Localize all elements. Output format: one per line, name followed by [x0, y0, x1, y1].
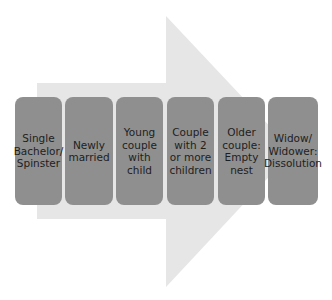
stage-label: Widow/ Widower: Dissolution [264, 132, 322, 170]
stage-young-couple: Young couple with child [116, 97, 163, 205]
stage-label: Older couple: Empty nest [222, 126, 260, 176]
stage-single: Single Bachelor/ Spinster [15, 97, 62, 205]
stage-empty-nest: Older couple: Empty nest [218, 97, 265, 205]
stage-label: Couple with 2 or more children [169, 126, 211, 176]
stage-dissolution: Widow/ Widower: Dissolution [268, 97, 318, 205]
stage-label: Single Bachelor/ Spinster [14, 132, 64, 170]
stage-label: Young couple with child [122, 126, 157, 176]
stage-newly-married: Newly married [65, 97, 113, 205]
stage-label: Newly married [68, 139, 109, 164]
stage-couple-children: Couple with 2 or more children [167, 97, 214, 205]
